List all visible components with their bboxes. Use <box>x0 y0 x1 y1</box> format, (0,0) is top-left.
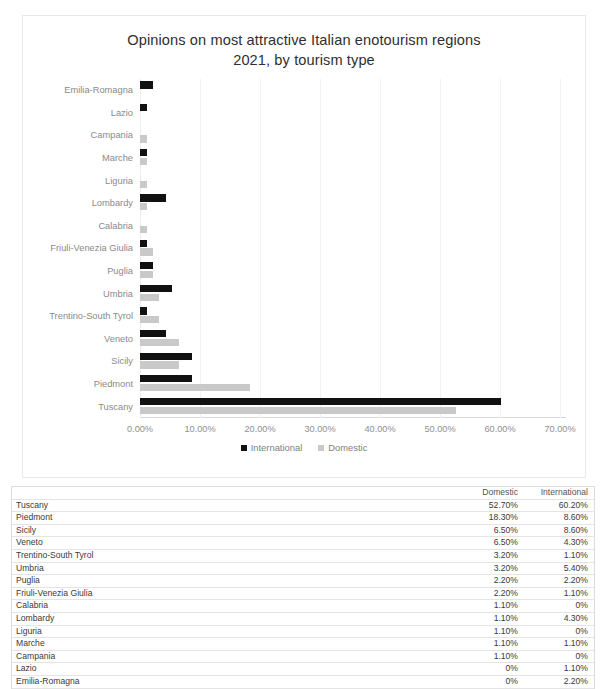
cell-region: Puglia <box>12 575 454 588</box>
column-header-region <box>12 487 454 499</box>
cell-domestic: 2.20% <box>454 575 524 588</box>
chart-category-row: Liguria <box>140 169 566 192</box>
data-table-header: Domestic International <box>12 487 594 499</box>
y-axis-category-label: Umbria <box>103 289 133 299</box>
cell-region: Sicily <box>12 524 454 537</box>
bar-domestic <box>140 361 179 368</box>
bar-domestic <box>140 181 147 188</box>
bar-domestic <box>140 271 153 278</box>
bar-domestic <box>140 135 147 142</box>
chart-title-line-1: Opinions on most attractive Italian enot… <box>23 30 585 50</box>
cell-region: Umbria <box>12 562 454 575</box>
bar-domestic <box>140 248 153 255</box>
cell-international: 2.20% <box>524 575 594 588</box>
table-row: Calabria1.10%0% <box>12 600 594 613</box>
cell-region: Calabria <box>12 600 454 613</box>
legend-item-label: International <box>251 442 303 453</box>
x-axis-tick-label: 50.00% <box>424 424 455 434</box>
cell-domestic: 1.10% <box>454 638 524 651</box>
cell-international: 1.10% <box>524 549 594 562</box>
chart-title-line-2: 2021, by tourism type <box>23 50 585 70</box>
bar-international <box>140 104 147 111</box>
y-axis-category-label: Marche <box>102 153 133 163</box>
bar-international <box>140 81 153 88</box>
bar-international <box>140 375 192 382</box>
bar-domestic <box>140 203 147 210</box>
cell-domestic: 6.50% <box>454 537 524 550</box>
bar-domestic <box>140 226 147 233</box>
bar-domestic <box>140 384 250 391</box>
cell-domestic: 3.20% <box>454 549 524 562</box>
bar-international <box>140 262 153 269</box>
bar-international <box>140 240 147 247</box>
cell-region: Emilia-Romagna <box>12 675 454 688</box>
legend-item[interactable]: International <box>241 442 303 453</box>
y-axis-category-label: Veneto <box>104 334 133 344</box>
bar-international <box>140 285 172 292</box>
table-row: Umbria3.20%5.40% <box>12 562 594 575</box>
bar-international <box>140 307 147 314</box>
chart-legend: InternationalDomestic <box>23 442 585 453</box>
legend-item[interactable]: Domestic <box>318 442 367 453</box>
cell-domestic: 18.30% <box>454 512 524 525</box>
table-row: Emilia-Romagna0%2.20% <box>12 675 594 688</box>
plot-area: 0.00%10.00%20.00%30.00%40.00%50.00%60.00… <box>140 79 566 418</box>
y-axis-category-label: Piedmont <box>94 379 133 389</box>
cell-region: Trentino-South Tyrol <box>12 549 454 562</box>
table-row: Veneto6.50%4.30% <box>12 537 594 550</box>
cell-international: 5.40% <box>524 562 594 575</box>
cell-domestic: 3.20% <box>454 562 524 575</box>
bar-domestic <box>140 158 147 165</box>
cell-domestic: 0% <box>454 675 524 688</box>
cell-international: 8.60% <box>524 512 594 525</box>
chart-panel: Opinions on most attractive Italian enot… <box>22 15 586 478</box>
chart-category-row: Puglia <box>140 260 566 283</box>
chart-category-row: Marche <box>140 147 566 170</box>
cell-international: 2.20% <box>524 675 594 688</box>
x-axis-tick-label: 60.00% <box>484 424 515 434</box>
cell-region: Piedmont <box>12 512 454 525</box>
cell-domestic: 6.50% <box>454 524 524 537</box>
cell-international: 0% <box>524 600 594 613</box>
cell-domestic: 0% <box>454 663 524 676</box>
table-row: Trentino-South Tyrol3.20%1.10% <box>12 549 594 562</box>
chart-category-row: Veneto <box>140 328 566 351</box>
cell-international: 1.10% <box>524 663 594 676</box>
cell-international: 1.10% <box>524 638 594 651</box>
data-table-container: Domestic International Tuscany52.70%60.2… <box>11 486 595 689</box>
x-axis-tick-label: 30.00% <box>304 424 335 434</box>
cell-international: 0% <box>524 625 594 638</box>
y-axis-category-label: Lazio <box>111 108 133 118</box>
table-row: Sicily6.50%8.60% <box>12 524 594 537</box>
bar-domestic <box>140 407 456 414</box>
column-header-domestic: Domestic <box>454 487 524 499</box>
chart-category-row: Lazio <box>140 102 566 125</box>
chart-title: Opinions on most attractive Italian enot… <box>23 30 585 70</box>
y-axis-category-label: Trentino-South Tyrol <box>49 311 133 321</box>
y-axis-category-label: Liguria <box>105 176 133 186</box>
table-row: Piedmont18.30%8.60% <box>12 512 594 525</box>
table-row: Marche1.10%1.10% <box>12 638 594 651</box>
cell-international: 1.10% <box>524 587 594 600</box>
bar-international <box>140 353 192 360</box>
table-row: Lombardy1.10%4.30% <box>12 612 594 625</box>
table-row: Lazio0%1.10% <box>12 663 594 676</box>
x-axis-tick-label: 0.00% <box>127 424 153 434</box>
bar-domestic <box>140 294 159 301</box>
y-axis-category-label: Calabria <box>98 221 133 231</box>
table-row: Puglia2.20%2.20% <box>12 575 594 588</box>
cell-domestic: 1.10% <box>454 612 524 625</box>
chart-category-row: Campania <box>140 124 566 147</box>
chart-category-row: Lombardy <box>140 192 566 215</box>
cell-domestic: 2.20% <box>454 587 524 600</box>
cell-international: 0% <box>524 650 594 663</box>
y-axis-category-label: Lombardy <box>92 198 133 208</box>
y-axis-category-label: Campania <box>91 130 133 140</box>
cell-international: 8.60% <box>524 524 594 537</box>
y-axis-category-label: Friuli-Venezia Giulia <box>50 243 133 253</box>
table-row: Tuscany52.70%60.20% <box>12 499 594 512</box>
chart-category-row: Friuli-Venezia Giulia <box>140 237 566 260</box>
cell-region: Friuli-Venezia Giulia <box>12 587 454 600</box>
cell-region: Lazio <box>12 663 454 676</box>
cell-domestic: 52.70% <box>454 499 524 512</box>
